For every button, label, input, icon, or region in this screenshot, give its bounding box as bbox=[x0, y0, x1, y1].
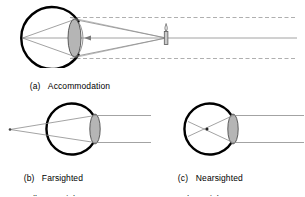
refracted-ray-upper bbox=[10, 116, 95, 130]
diagram-accommodation bbox=[0, 0, 305, 68]
diagram-nearsighted bbox=[155, 98, 305, 160]
focal-point bbox=[9, 128, 12, 131]
farsighted-svg bbox=[0, 98, 152, 160]
caption-label-a: Accommodation bbox=[48, 81, 110, 92]
object-candle bbox=[164, 24, 168, 45]
caption-nearsighted: (c)Nearsighted (myopia) bbox=[168, 162, 243, 196]
caption-farsighted: (b)Farsighted (hyperopia) bbox=[14, 162, 83, 196]
caption-label-c: Nearsighted bbox=[196, 173, 243, 184]
axis-arrowhead bbox=[84, 36, 91, 41]
crystalline-lens bbox=[90, 114, 100, 144]
ray-envelope-upper bbox=[70, 18, 166, 39]
caption-sublabel-b: (hyperopia) bbox=[32, 194, 83, 197]
crystalline-lens bbox=[68, 19, 81, 57]
refracted-ray-lower bbox=[10, 130, 95, 143]
candle-flame bbox=[165, 24, 167, 32]
figure-root: (a)Accommodation (b)Farsighted (hyperopi… bbox=[0, 0, 305, 196]
diagram-farsighted bbox=[0, 98, 152, 160]
caption-sublabel-c: (myopia) bbox=[186, 194, 243, 197]
caption-tag-b: (b) bbox=[24, 173, 42, 184]
accommodation-svg bbox=[0, 0, 305, 68]
caption-tag-a: (a) bbox=[30, 81, 48, 92]
nearsighted-svg bbox=[155, 98, 305, 160]
ray-envelope-lower bbox=[70, 38, 166, 59]
eyeball-sclera-arc bbox=[46, 104, 93, 155]
caption-accommodation: (a)Accommodation bbox=[20, 70, 110, 102]
refracted-ray-lower bbox=[188, 122, 233, 143]
ray-upper-refracted bbox=[23, 20, 75, 39]
ray-lower-refracted bbox=[23, 38, 75, 57]
focal-point bbox=[206, 128, 209, 131]
refracted-ray-upper bbox=[188, 116, 233, 137]
crystalline-lens bbox=[228, 114, 238, 144]
caption-label-b: Farsighted bbox=[42, 173, 83, 184]
caption-tag-c: (c) bbox=[178, 173, 196, 184]
candle-body bbox=[164, 32, 168, 45]
